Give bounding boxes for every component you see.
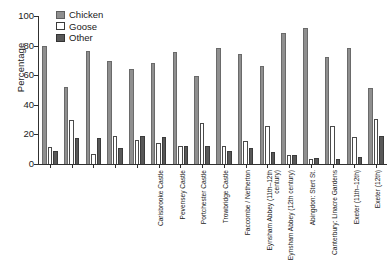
bar-goose	[156, 143, 161, 164]
bar-chicken	[216, 48, 221, 164]
x-axis-label: Eynsham Abbey (11th–12th century)	[266, 170, 281, 274]
bar-goose	[352, 137, 357, 164]
bar-goose	[287, 155, 292, 164]
y-axis-tick-labels: 020406080100	[12, 0, 34, 278]
x-axis-label: Canterbury: Linacre Gardens	[331, 170, 338, 274]
bar-group	[86, 16, 102, 164]
x-axis-label: Eynsham Abbey (12th century)	[287, 170, 294, 274]
y-tick-label: 0	[12, 159, 34, 169]
x-axis-label: Abingdon: Stert St.	[309, 170, 316, 274]
y-tick-mark	[34, 164, 38, 165]
bar-goose	[48, 147, 53, 164]
bar-chicken	[303, 28, 308, 164]
y-tick-mark	[34, 75, 38, 76]
x-axis-label: Faccombe / Netherton	[244, 170, 251, 274]
bar-other	[358, 157, 363, 164]
x-axis-label: Exeter (12th)	[374, 170, 381, 274]
x-tick-mark	[180, 165, 181, 168]
bar-chicken	[173, 52, 178, 164]
bar-other	[162, 137, 167, 164]
x-tick-mark	[333, 165, 334, 168]
bar-group	[238, 16, 254, 164]
x-tick-mark	[267, 165, 268, 168]
bar-goose	[265, 126, 270, 164]
bar-group	[325, 16, 341, 164]
y-tick-mark	[34, 16, 38, 17]
y-tick-label: 100	[12, 11, 34, 21]
x-tick-mark	[50, 165, 51, 168]
bar-group	[107, 16, 123, 164]
y-tick-label: 80	[12, 41, 34, 51]
x-tick-mark	[137, 165, 138, 168]
bar-goose	[243, 141, 248, 164]
bar-group	[260, 16, 276, 164]
plot-area	[39, 16, 387, 164]
bar-group	[303, 16, 319, 164]
x-tick-mark	[72, 165, 73, 168]
bar-goose	[200, 123, 205, 164]
bar-group	[64, 16, 80, 164]
bar-chicken	[64, 87, 69, 164]
bar-group	[129, 16, 145, 164]
bar-other	[205, 146, 210, 164]
x-axis-label: Pevensey Castle	[179, 170, 186, 274]
bar-other	[336, 159, 341, 164]
bar-chicken	[86, 51, 91, 164]
x-tick-mark	[376, 165, 377, 168]
bar-goose	[178, 146, 183, 164]
bar-other	[227, 151, 232, 164]
x-tick-mark	[93, 165, 94, 168]
bar-chicken	[368, 88, 373, 164]
bar-other	[379, 136, 384, 164]
bar-chicken	[107, 61, 112, 164]
x-tick-mark	[246, 165, 247, 168]
bar-group	[281, 16, 297, 164]
x-axis-label: Trowbridge Castle	[222, 170, 229, 274]
bar-chicken	[42, 46, 47, 164]
bar-other	[53, 151, 58, 164]
bar-other	[271, 152, 276, 164]
y-tick-mark	[34, 46, 38, 47]
bar-chicken	[129, 69, 134, 164]
bar-other	[292, 155, 297, 164]
bar-goose	[113, 136, 118, 164]
x-tick-mark	[202, 165, 203, 168]
bar-other	[184, 146, 189, 164]
bar-goose	[222, 146, 227, 164]
bar-chart: Percentage 020406080100 Chicken Goose Ot…	[0, 0, 392, 278]
bar-group	[151, 16, 167, 164]
x-tick-mark	[115, 165, 116, 168]
bar-other	[118, 148, 123, 164]
bar-group	[42, 16, 58, 164]
bar-group	[368, 16, 384, 164]
bar-group	[173, 16, 189, 164]
bar-chicken	[260, 66, 265, 164]
x-tick-mark	[311, 165, 312, 168]
y-tick-label: 60	[12, 70, 34, 80]
bar-chicken	[347, 48, 352, 164]
bar-goose	[330, 126, 335, 164]
bar-other	[314, 158, 319, 164]
bar-other	[75, 138, 80, 164]
bar-chicken	[281, 33, 286, 164]
bar-group	[194, 16, 210, 164]
x-tick-mark	[289, 165, 290, 168]
y-tick-label: 20	[12, 130, 34, 140]
y-tick-mark	[34, 105, 38, 106]
x-axis-label: Exeter (11th–12th)	[353, 170, 360, 274]
bar-chicken	[238, 54, 243, 164]
bar-chicken	[194, 76, 199, 164]
bar-group	[347, 16, 363, 164]
bar-chicken	[325, 57, 330, 164]
bar-goose	[91, 154, 96, 164]
x-tick-mark	[224, 165, 225, 168]
bar-goose	[135, 140, 140, 164]
x-tick-mark	[159, 165, 160, 168]
bar-goose	[309, 159, 314, 164]
bar-group	[216, 16, 232, 164]
bar-other	[97, 138, 102, 164]
x-tick-mark	[354, 165, 355, 168]
x-axis-label: Portchester Castle	[200, 170, 207, 274]
y-tick-mark	[34, 134, 38, 135]
x-axis-line	[38, 164, 387, 165]
